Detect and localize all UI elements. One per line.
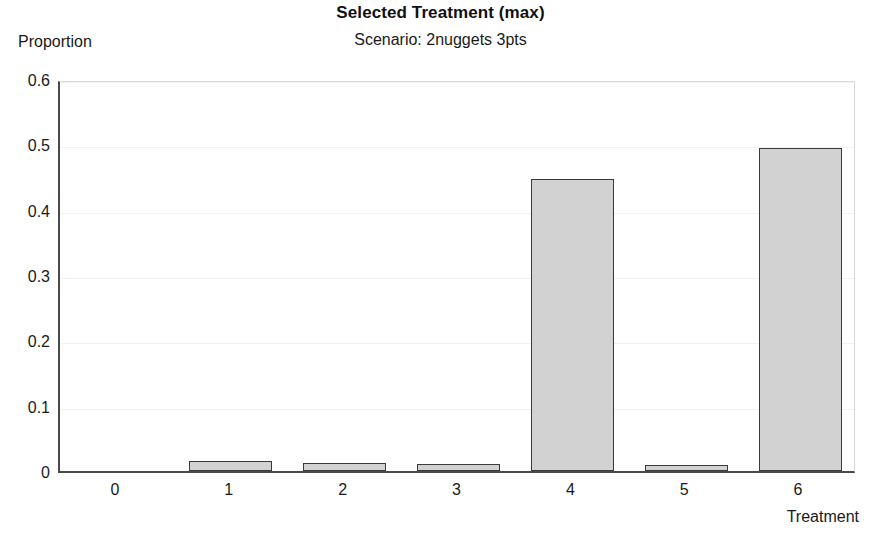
x-tick-label: 6 [778, 481, 818, 499]
x-tick-label: 4 [550, 481, 590, 499]
x-tick-label: 2 [323, 481, 363, 499]
x-tick-label: 5 [664, 481, 704, 499]
x-tick-label: 3 [437, 481, 477, 499]
chart-container: Selected Treatment (max) Scenario: 2nugg… [0, 0, 881, 541]
x-tick-label: 1 [209, 481, 249, 499]
x-tick-label: 0 [95, 481, 135, 499]
x-axis-ticks: 0123456 [0, 0, 881, 541]
